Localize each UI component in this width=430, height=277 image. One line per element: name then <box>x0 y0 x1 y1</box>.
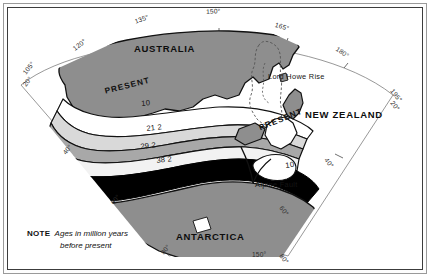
new-zealand-north-island <box>283 89 303 119</box>
tick-180 <box>344 63 348 68</box>
tick-40-right <box>335 154 343 158</box>
map-canvas <box>7 7 423 270</box>
figure-root: AUSTRALIA ANTARCTICA NEW ZEALAND PRESENT… <box>0 0 430 277</box>
